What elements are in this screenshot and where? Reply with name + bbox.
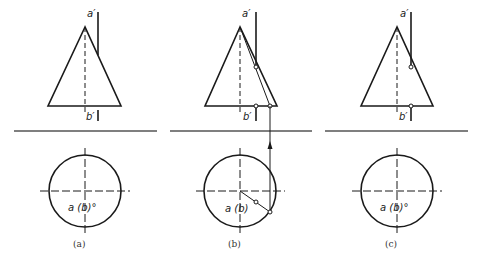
label-a-prime: a′ bbox=[242, 8, 251, 19]
label-a-prime: a′ bbox=[87, 8, 96, 19]
label-b-prime: b′ bbox=[86, 111, 95, 122]
label-a-b: a (b) bbox=[225, 203, 248, 214]
point-marker bbox=[268, 210, 272, 214]
point-marker bbox=[254, 200, 258, 204]
front-view-c: a′ b′ bbox=[361, 8, 433, 122]
cone-projection-figure: a′ b′ a (b)° (a) a′ b′ bbox=[0, 0, 478, 262]
label-a-b: a (b)° bbox=[380, 202, 408, 213]
top-view-c: a (b)° bbox=[352, 148, 442, 234]
label-a-prime: a′ bbox=[400, 8, 409, 19]
label-a-b: a (b)° bbox=[68, 202, 96, 213]
cone-triangle bbox=[205, 27, 277, 106]
point-marker bbox=[409, 104, 413, 108]
label-b-prime: b′ bbox=[399, 111, 408, 122]
panel-c: a′ b′ a (b)° (c) bbox=[325, 8, 468, 249]
panel-b: a′ b′ a (b) (b) bbox=[170, 8, 312, 249]
label-b-prime: b′ bbox=[243, 111, 252, 122]
point-marker bbox=[254, 104, 258, 108]
panel-a: a′ b′ a (b)° (a) bbox=[14, 8, 157, 249]
point-marker bbox=[409, 65, 413, 69]
caption-c: (c) bbox=[385, 239, 397, 249]
caption-a: (a) bbox=[73, 239, 85, 249]
top-view-a: a (b)° bbox=[40, 148, 130, 234]
front-view-b: a′ b′ bbox=[205, 8, 277, 122]
caption-b: (b) bbox=[228, 239, 241, 249]
top-view-b: a (b) bbox=[196, 148, 285, 234]
arrow-up-icon bbox=[268, 141, 273, 149]
front-view-a: a′ b′ bbox=[48, 8, 121, 122]
point-marker bbox=[254, 65, 258, 69]
